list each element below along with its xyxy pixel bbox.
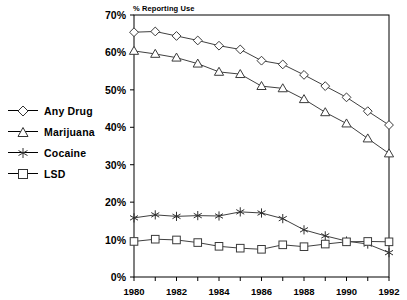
series-line: [134, 51, 389, 154]
data-point-diamond: [342, 93, 351, 102]
data-point-square: [215, 243, 223, 251]
data-point-diamond: [193, 36, 202, 45]
x-axis-tick-label: 1982: [166, 286, 187, 297]
data-point-square: [173, 236, 181, 244]
data-point-diamond: [172, 32, 181, 41]
data-point-triangle: [363, 134, 372, 142]
data-point-square: [321, 240, 329, 248]
x-axis-tick-label: 1992: [378, 286, 399, 297]
data-point-triangle: [257, 82, 266, 90]
data-point-square: [385, 238, 393, 246]
data-point-diamond: [300, 70, 309, 79]
y-axis-tick-label: 30%: [105, 159, 127, 171]
data-point-square: [343, 238, 351, 246]
data-point-diamond: [278, 60, 287, 69]
x-axis-tick-label: 1990: [336, 286, 357, 297]
y-axis-tick-label: 70%: [105, 9, 127, 21]
data-point-diamond: [236, 45, 245, 54]
data-point-diamond: [215, 41, 224, 50]
data-point-triangle: [342, 119, 351, 127]
y-axis-tick-label: 20%: [105, 196, 127, 208]
data-point-square: [364, 238, 372, 246]
data-point-square: [236, 244, 244, 252]
y-axis-tick-label: 10%: [105, 234, 127, 246]
data-point-square: [279, 241, 287, 249]
data-point-triangle: [384, 149, 393, 157]
data-point-diamond: [257, 56, 266, 65]
chart-container: % Reporting Use Any Drug Marijuana: [0, 0, 407, 300]
data-point-diamond: [321, 82, 330, 91]
data-point-diamond: [151, 27, 160, 36]
y-axis-tick-label: 60%: [105, 46, 127, 58]
y-axis-tick-label: 50%: [105, 84, 127, 96]
data-point-triangle: [299, 95, 308, 103]
series-line: [134, 31, 389, 125]
data-point-square: [151, 235, 159, 243]
data-point-triangle: [129, 46, 138, 54]
data-point-square: [194, 239, 202, 247]
series-lsd: [130, 235, 393, 253]
y-axis-tick-label: 40%: [105, 121, 127, 133]
x-axis-tick-label: 1988: [293, 286, 314, 297]
data-point-diamond: [363, 107, 372, 116]
series-any-drug: [130, 27, 394, 129]
data-point-square: [258, 246, 266, 254]
data-point-square: [300, 243, 308, 251]
data-point-diamond: [385, 121, 394, 130]
x-axis-tick-label: 1980: [123, 286, 144, 297]
y-axis-tick-label: 0%: [111, 271, 127, 283]
data-point-diamond: [130, 28, 139, 37]
chart-plot-area: 0%10%20%30%40%50%60%70%19801982198419861…: [0, 0, 407, 300]
x-axis-tick-label: 1986: [251, 286, 272, 297]
data-point-triangle: [321, 108, 330, 116]
data-point-square: [130, 238, 138, 246]
data-point-triangle: [214, 67, 223, 75]
x-axis-tick-label: 1984: [208, 286, 230, 297]
